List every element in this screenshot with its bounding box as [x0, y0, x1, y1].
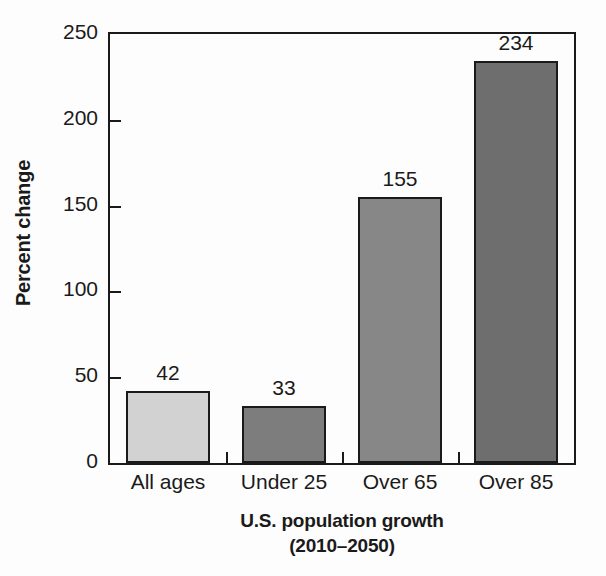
bar-value-label: 234 — [466, 31, 566, 55]
y-tick-label: 0 — [30, 449, 98, 473]
bar-chart-figure: Percent change 050100150200250 423315523… — [0, 0, 606, 576]
bar-value-label: 33 — [234, 376, 334, 400]
x-axis-title: U.S. population growth (2010–2050) — [108, 508, 576, 558]
bar — [242, 406, 326, 463]
x-tick-label: Over 85 — [456, 470, 576, 494]
y-tick-mark — [110, 291, 121, 293]
bar — [474, 61, 558, 463]
x-tick-label: Under 25 — [224, 470, 344, 494]
bar — [126, 391, 210, 463]
y-tick-label: 100 — [30, 277, 98, 301]
y-tick-label: 50 — [30, 363, 98, 387]
x-tick-label: Over 65 — [340, 470, 460, 494]
x-tick-mark — [458, 452, 460, 463]
x-tick-label: All ages — [108, 470, 228, 494]
x-tick-mark — [226, 452, 228, 463]
x-axis-tick-labels: All agesUnder 25Over 65Over 85 — [108, 470, 576, 504]
x-tick-mark — [342, 452, 344, 463]
bar — [358, 197, 442, 463]
y-tick-label: 150 — [30, 192, 98, 216]
x-axis-title-line2: (2010–2050) — [108, 533, 576, 558]
y-tick-mark — [110, 120, 121, 122]
y-tick-label: 200 — [30, 106, 98, 130]
y-tick-label: 250 — [30, 20, 98, 44]
bar-value-label: 42 — [118, 361, 218, 385]
plot-inner: 4233155234 — [110, 34, 574, 463]
x-axis-title-line1: U.S. population growth — [240, 510, 444, 531]
bar-value-label: 155 — [350, 167, 450, 191]
plot-area: 4233155234 — [108, 32, 576, 465]
y-tick-mark — [110, 206, 121, 208]
y-axis-tick-labels: 050100150200250 — [0, 0, 100, 576]
